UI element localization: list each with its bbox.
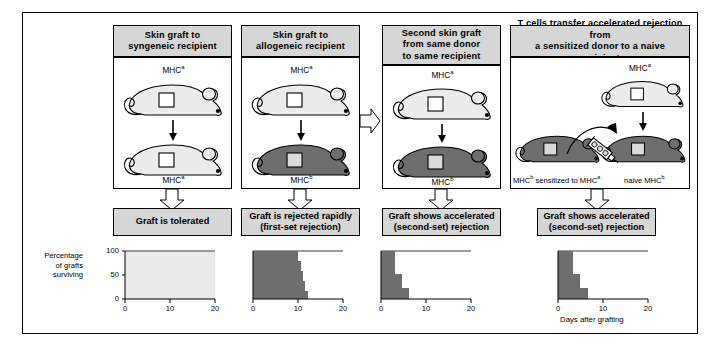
- mhc-label-donor-syngeneic: MHCa: [114, 64, 233, 75]
- x-tick-10-graph1: 10: [163, 304, 177, 313]
- mouse-donor-syngeneic: [121, 80, 226, 120]
- mhc-label-donor-allogeneic: MHCa: [242, 64, 361, 75]
- graph-allogeneic: 0 10 20: [217, 243, 347, 309]
- result-box-second-graft: Graft shows accelerated (second-set) rej…: [382, 208, 501, 236]
- x-tick-0-graph2: 0: [247, 304, 259, 313]
- mouse-donor-allogeneic: [249, 80, 354, 120]
- transfer-arrow-second-graft: [436, 124, 448, 144]
- mhc-label-recipient-syngeneic: MHCa: [114, 174, 233, 185]
- figure-root: Skin graft to syngeneic recipient MHCa: [0, 0, 718, 349]
- x-tick-0-graph3: 0: [375, 304, 387, 313]
- panel-diagram-t-cell-transfer: MHCa: [510, 57, 690, 189]
- x-tick-10-graph2: 10: [291, 304, 305, 313]
- panel-header-allogeneic: Skin graft to allogeneic recipient: [241, 25, 360, 57]
- panel-header-syngeneic: Skin graft to syngeneic recipient: [113, 25, 232, 57]
- result-box-allogeneic: Graft is rejected rapidly (first-set rej…: [241, 208, 360, 236]
- mhc-label-donor-second-graft: MHCa: [383, 69, 502, 80]
- x-tick-20-graph3: 20: [464, 304, 478, 313]
- figure-frame: Skin graft to syngeneic recipient MHCa: [22, 12, 698, 334]
- block-arrow-to-second-graft: [360, 106, 382, 136]
- graph-t-cell-transfer: 0 10 20 Days after grafting: [522, 243, 652, 309]
- transfer-arrow-allogeneic: [295, 120, 307, 142]
- graft-arrow-t-cell-transfer: [637, 112, 649, 132]
- mhc-label-recipient-second-graft: MHCb: [383, 176, 502, 187]
- result-box-syngeneic: Graft is tolerated: [113, 208, 232, 236]
- sensitized-donor-label: MHCb sensitized to MHCa: [513, 174, 600, 185]
- naive-recipient-label: naive MHCb: [624, 174, 665, 185]
- x-tick-0-graph1: 0: [119, 304, 131, 313]
- panel-diagram-allogeneic: MHCa MHCb: [241, 57, 360, 189]
- x-tick-20-graph4: 20: [641, 304, 655, 313]
- graph-syngeneic: 100 50 0 0 10 20: [89, 243, 219, 309]
- transfer-arrow-syngeneic: [167, 120, 179, 142]
- panel-diagram-second-graft: MHCa MHCb: [382, 65, 501, 189]
- y-tick-50-graph1: 50: [97, 270, 119, 279]
- panel-diagram-syngeneic: MHCa MHCa: [113, 57, 232, 189]
- y-axis-label: Percentage of grafts surviving: [25, 251, 83, 280]
- x-tick-10-graph4: 10: [596, 304, 610, 313]
- mhc-label-donor-t-cell-transfer: MHCa: [595, 62, 685, 73]
- panel-header-t-cell-transfer: T cells transfer accelerated rejection f…: [510, 25, 690, 57]
- x-axis-label: Days after grafting: [560, 315, 624, 324]
- x-tick-0-graph4: 0: [552, 304, 564, 313]
- x-tick-10-graph3: 10: [419, 304, 433, 313]
- y-tick-0-graph1: 0: [97, 294, 119, 303]
- syringe-icon: [584, 136, 622, 170]
- mouse-donor-second-graft: [390, 84, 495, 124]
- mouse-donor-t-cell-transfer: [599, 76, 687, 112]
- panel-header-second-graft: Second skin graft from same donor to sam…: [382, 25, 501, 65]
- graph-second-set: 0 10 20: [345, 243, 475, 309]
- mhc-label-recipient-allogeneic: MHCb: [242, 174, 361, 185]
- result-box-t-cell-transfer: Graft shows accelerated (second-set) rej…: [537, 208, 656, 236]
- y-tick-100-graph1: 100: [97, 246, 119, 255]
